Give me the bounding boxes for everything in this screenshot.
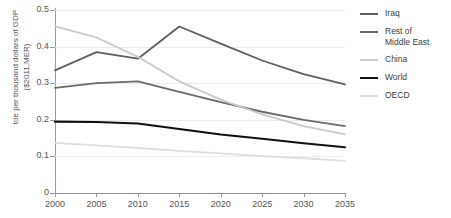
chart-figure: toe per thousand dollars of GDP ($2011,M… [0,0,451,218]
legend-item-iraq[interactable]: Iraq [360,8,451,19]
x-axis-ticks: 20002005201020152020202520302035 [55,193,346,213]
x-tick-label: 2015 [159,199,199,209]
legend-item-label: OECD [385,90,410,101]
x-tick-mark [304,193,305,197]
x-tick-label: 2010 [118,199,158,209]
x-tick-mark [345,193,346,197]
legend-item-china[interactable]: China [360,54,451,65]
y-tick-label: 0.3 [17,78,49,87]
x-tick-mark [55,193,56,197]
x-tick-mark [179,193,180,197]
x-tick-label: 2030 [284,199,324,209]
legend-item-label: World [385,72,407,83]
y-tick-label: 0 [17,188,49,197]
legend-item-world[interactable]: World [360,72,451,83]
x-tick-label: 2025 [242,199,282,209]
y-tick-label: 0.2 [17,115,49,124]
chart-legend: IraqRest ofMiddle EastChinaWorldOECD [360,8,451,108]
y-axis-title: toe per thousand dollars of GDP ($2011,M… [10,0,32,152]
legend-line-swatch-icon [360,8,378,19]
x-tick-mark [96,193,97,197]
x-tick-mark [138,193,139,197]
x-tick-label: 2005 [76,199,116,209]
legend-item-oecd[interactable]: OECD [360,90,451,101]
y-tick-label: 0.4 [17,42,49,51]
legend-item-label: China [385,54,407,65]
series-lines [55,10,345,193]
x-tick-label: 2035 [325,199,365,209]
series-line-china [55,26,345,134]
y-tick-label: 0.1 [17,151,49,160]
legend-line-swatch-icon [360,26,378,37]
x-tick-mark [221,193,222,197]
y-axis-title-line-2: ($2011,MER) [21,0,32,152]
x-tick-mark [262,193,263,197]
series-line-oecd [55,143,345,161]
legend-line-swatch-icon [360,72,378,83]
legend-line-swatch-icon [360,90,378,101]
x-tick-label: 2000 [35,199,75,209]
x-tick-label: 2020 [201,199,241,209]
y-axis-title-line-1: toe per thousand dollars of GDP [10,0,21,152]
legend-item-label: Iraq [385,8,400,19]
legend-item-label: Rest ofMiddle East [385,26,429,47]
series-line-iraq [55,26,345,84]
series-line-rest-of-middle-east [55,81,345,126]
legend-item-rest-of[interactable]: Rest ofMiddle East [360,26,451,47]
y-tick-label: 0.5 [17,5,49,14]
legend-line-swatch-icon [360,54,378,65]
plot-area [55,10,345,193]
